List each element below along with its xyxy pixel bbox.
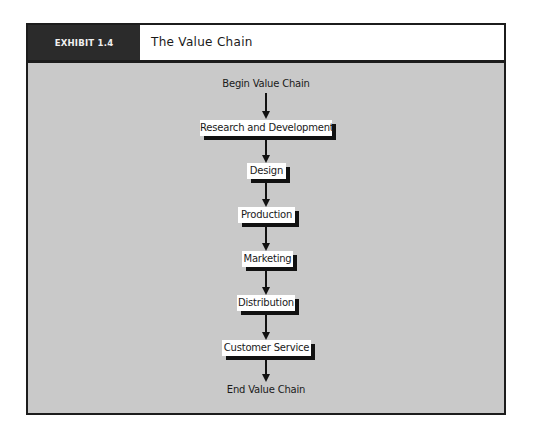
exhibit-number: EXHIBIT 1.4 [28, 25, 140, 60]
arrow-icon [265, 183, 267, 201]
step-design: Design [247, 163, 286, 179]
arrow-icon [265, 360, 267, 376]
begin-label: Begin Value Chain [222, 78, 309, 89]
step-research-and-development: Research and Development [200, 120, 332, 136]
step-customer-service: Customer Service [222, 340, 311, 356]
arrow-icon [265, 315, 267, 334]
exhibit-title: The Value Chain [151, 25, 253, 60]
end-label: End Value Chain [227, 384, 305, 395]
step-production: Production [238, 207, 295, 223]
arrow-icon [265, 271, 267, 289]
step-distribution: Distribution [237, 295, 295, 311]
arrow-icon [265, 227, 267, 245]
step-marketing: Marketing [242, 251, 293, 267]
arrow-icon [265, 139, 267, 157]
exhibit-header: EXHIBIT 1.4 The Value Chain [28, 25, 504, 63]
arrow-icon [265, 93, 267, 113]
